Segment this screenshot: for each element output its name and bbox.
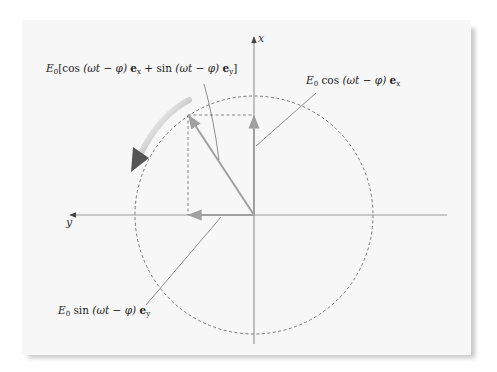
rotation-arrow-icon — [141, 100, 189, 153]
label-E: E — [306, 74, 314, 86]
label-ex-sub: x — [396, 80, 400, 88]
label-sub: 0 — [66, 310, 70, 318]
label-arg: (ωt − φ) — [342, 74, 386, 86]
label-E: E — [46, 62, 54, 74]
label-arg: (ωt − φ) — [92, 304, 136, 316]
label-arg: (ωt − φ) — [83, 62, 127, 74]
label-cos: cos — [62, 62, 80, 74]
label-plus: + — [144, 62, 153, 74]
label-E: E — [58, 304, 66, 316]
label-sub: 0 — [314, 80, 318, 88]
leader-line-y-component — [146, 217, 221, 305]
y-axis-label: y — [66, 216, 72, 229]
label-ex-sub: x — [137, 68, 141, 76]
resultant-vector — [189, 116, 254, 215]
label-ey-sub: y — [146, 310, 150, 318]
resultant-label: E0[cos (ωt − φ) ex + sin (ωt − φ) ey] — [46, 62, 237, 76]
label-bracket: ] — [233, 62, 237, 74]
label-cos: cos — [321, 74, 339, 86]
label-sin: sin — [73, 304, 89, 316]
x-axis-label: x — [258, 32, 264, 45]
leader-line-x-component — [256, 93, 316, 146]
x-component-label: E0 cos (ωt − φ) ex — [306, 74, 400, 88]
label-sin: sin — [156, 62, 172, 74]
y-component-label: E0 sin (ωt − φ) ey — [58, 304, 150, 318]
label-arg: (ωt − φ) — [175, 62, 219, 74]
